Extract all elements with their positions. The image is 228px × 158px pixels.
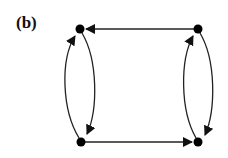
edge-top-right-to-bottom-right: [200, 33, 213, 135]
edge-bottom-left-to-top-left: [65, 36, 79, 138]
node-top-right: [194, 25, 203, 34]
edge-top-left-to-bottom-left: [82, 33, 95, 134]
directed-graph: [0, 0, 228, 158]
node-bottom-right: [194, 138, 203, 147]
node-bottom-left: [77, 138, 86, 147]
edge-bottom-right-to-top-right: [184, 36, 196, 138]
node-top-left: [76, 25, 85, 34]
